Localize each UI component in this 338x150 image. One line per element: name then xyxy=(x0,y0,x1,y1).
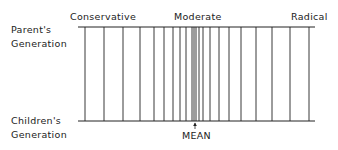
distribution-diagram xyxy=(0,0,338,150)
mean-arrow-icon xyxy=(193,123,197,127)
